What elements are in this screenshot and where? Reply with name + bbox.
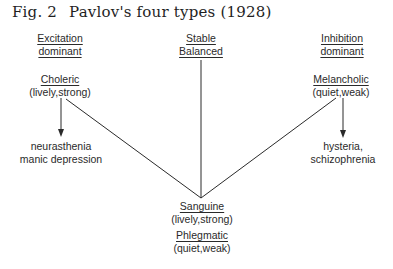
outcome-line: neurasthenia: [20, 140, 102, 153]
type-phlegmatic: Phlegmatic (quiet,weak): [173, 229, 230, 255]
axis-label-line: dominant: [37, 45, 83, 58]
axis-label-line: Inhibition: [320, 32, 363, 45]
type-traits: (lively,strong): [171, 213, 233, 226]
outcome-melancholic: hysteria, schizophrenia: [311, 140, 376, 166]
type-name: Choleric: [29, 73, 91, 86]
axis-label-line: Excitation: [37, 32, 83, 45]
outcome-line: schizophrenia: [311, 153, 376, 166]
axis-label-line: dominant: [320, 45, 363, 58]
axis-label-line: Stable: [179, 32, 223, 45]
type-melancholic: Melancholic (quiet,weak): [312, 73, 369, 99]
outcome-line: hysteria,: [311, 140, 376, 153]
type-traits: (quiet,weak): [312, 86, 369, 99]
type-choleric: Choleric (lively,strong): [29, 73, 91, 99]
outcome-choleric: neurasthenia manic depression: [20, 140, 102, 166]
axis-label-inhibition: Inhibition dominant: [320, 32, 363, 58]
type-sanguine: Sanguine (lively,strong): [171, 200, 233, 226]
axis-label-stable: Stable Balanced: [179, 32, 223, 58]
type-traits: (lively,strong): [29, 86, 91, 99]
axis-label-line: Balanced: [179, 45, 223, 58]
type-name: Phlegmatic: [173, 229, 230, 242]
outcome-line: manic depression: [20, 153, 102, 166]
arrow-down-icon: [340, 98, 346, 138]
type-traits: (quiet,weak): [173, 242, 230, 255]
type-name: Sanguine: [171, 200, 233, 213]
type-name: Melancholic: [312, 73, 369, 86]
axis-label-excitation: Excitation dominant: [37, 32, 83, 58]
arrow-down-icon: [58, 98, 64, 137]
